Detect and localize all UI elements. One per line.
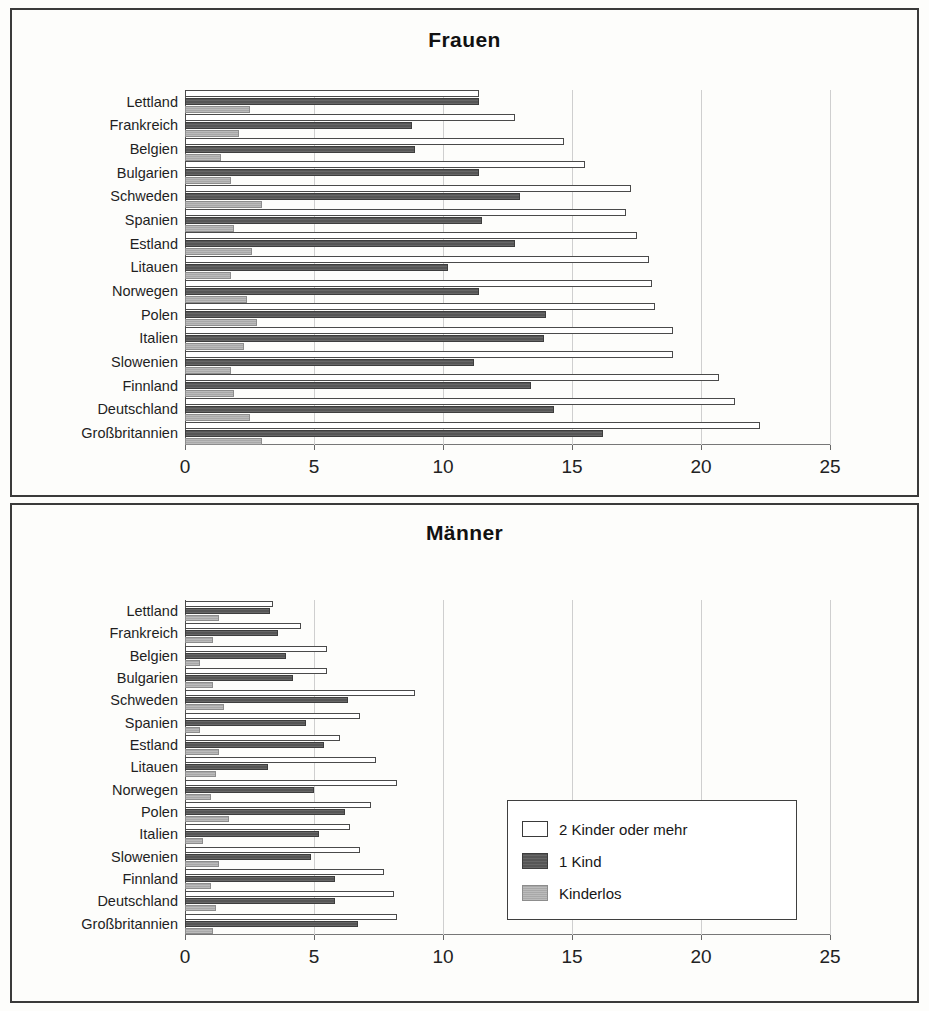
x-axis-tick-label: 0 — [180, 946, 191, 968]
bar-skinderlos — [185, 771, 216, 777]
bar-skinderlos — [185, 905, 216, 911]
category-label: Deutschland — [97, 894, 178, 909]
bar-s1kind — [185, 430, 603, 437]
x-axis-tick-label: 0 — [180, 456, 191, 478]
bar-s2plus — [185, 690, 415, 696]
plot-area-frauen: 0510152025LettlandFrankreichBelgienBulga… — [185, 90, 830, 445]
category-label: Spanien — [125, 213, 178, 228]
category-label: Finnland — [122, 379, 178, 394]
x-axis-tick — [701, 935, 702, 940]
bar-s1kind — [185, 288, 479, 295]
category-label: Spanien — [125, 716, 178, 731]
bar-s2plus — [185, 668, 327, 674]
chart-title-maenner: Männer — [12, 521, 917, 545]
x-axis-tick — [572, 935, 573, 940]
x-axis-tick-label: 25 — [819, 456, 840, 478]
bar-s1kind — [185, 720, 306, 726]
bar-s1kind — [185, 876, 335, 882]
bar-s2plus — [185, 185, 631, 192]
bar-s2plus — [185, 90, 479, 97]
bar-s2plus — [185, 114, 515, 121]
bar-skinderlos — [185, 749, 219, 755]
category-label: Italien — [139, 331, 178, 346]
bar-skinderlos — [185, 883, 211, 889]
bar-skinderlos — [185, 704, 224, 710]
x-axis-tick-label: 10 — [432, 946, 453, 968]
category-row: Großbritannien — [185, 421, 830, 445]
bar-s1kind — [185, 787, 314, 793]
bar-s1kind — [185, 898, 335, 904]
bar-s2plus — [185, 398, 735, 405]
category-label: Italien — [139, 827, 178, 842]
bar-s2plus — [185, 646, 327, 652]
bar-s1kind — [185, 169, 479, 176]
bar-s2plus — [185, 623, 301, 629]
category-row: Bulgarien — [185, 667, 830, 689]
category-label: Polen — [141, 805, 178, 820]
bar-s2plus — [185, 422, 760, 429]
bar-s2plus — [185, 802, 371, 808]
x-axis-tick-label: 10 — [432, 456, 453, 478]
bar-skinderlos — [185, 861, 219, 867]
category-row: Belgien — [185, 645, 830, 667]
bar-s2plus — [185, 891, 394, 897]
category-row: Lettland — [185, 600, 830, 622]
category-label: Estland — [130, 738, 178, 753]
category-row: Frankreich — [185, 114, 830, 138]
category-row: Litauen — [185, 756, 830, 778]
bar-s2plus — [185, 780, 397, 786]
gridline — [830, 600, 831, 935]
bar-s1kind — [185, 359, 474, 366]
legend-label-kinderlos: Kinderlos — [559, 885, 622, 902]
category-label: Litauen — [130, 260, 178, 275]
x-axis-tick — [443, 445, 444, 450]
legend-item-2-kinder-oder-mehr: 2 Kinder oder mehr — [522, 813, 780, 845]
bar-s2plus — [185, 351, 673, 358]
category-label: Lettland — [126, 604, 178, 619]
bar-skinderlos — [185, 816, 229, 822]
bar-s2plus — [185, 327, 673, 334]
bar-skinderlos — [185, 838, 203, 844]
bar-s2plus — [185, 374, 719, 381]
bar-skinderlos — [185, 615, 219, 621]
category-row: Polen — [185, 303, 830, 327]
bar-s1kind — [185, 608, 270, 614]
bar-skinderlos — [185, 390, 234, 397]
category-row: Deutschland — [185, 398, 830, 422]
category-row: Litauen — [185, 256, 830, 280]
category-label: Großbritannien — [81, 917, 178, 932]
x-axis-tick-label: 20 — [690, 456, 711, 478]
category-row: Spanien — [185, 712, 830, 734]
category-label: Norwegen — [112, 284, 178, 299]
category-label: Frankreich — [110, 626, 179, 641]
category-label: Litauen — [130, 760, 178, 775]
category-label: Polen — [141, 308, 178, 323]
category-label: Belgien — [130, 142, 178, 157]
bar-skinderlos — [185, 248, 252, 255]
category-row: Italien — [185, 327, 830, 351]
legend-item-1-kind: 1 Kind — [522, 845, 780, 877]
bar-skinderlos — [185, 154, 221, 161]
category-row: Norwegen — [185, 279, 830, 303]
bar-s2plus — [185, 303, 655, 310]
category-label: Norwegen — [112, 783, 178, 798]
chart-legend: 2 Kinder oder mehr 1 Kind Kinderlos — [507, 800, 797, 920]
bar-skinderlos — [185, 130, 239, 137]
x-axis-tick — [185, 445, 186, 450]
bar-s2plus — [185, 914, 397, 920]
legend-item-kinderlos: Kinderlos — [522, 877, 780, 909]
x-axis-tick — [701, 445, 702, 450]
bar-skinderlos — [185, 225, 234, 232]
chart-panel-frauen: Frauen 0510152025LettlandFrankreichBelgi… — [10, 8, 919, 497]
category-row: Slowenien — [185, 350, 830, 374]
bar-skinderlos — [185, 296, 247, 303]
bar-s2plus — [185, 280, 652, 287]
bar-skinderlos — [185, 319, 257, 326]
bar-s1kind — [185, 382, 531, 389]
chart-panel-maenner: Männer 0510152025LettlandFrankreichBelgi… — [10, 503, 919, 1003]
category-label: Bulgarien — [117, 166, 178, 181]
bar-skinderlos — [185, 367, 231, 374]
bar-s1kind — [185, 921, 358, 927]
bar-s2plus — [185, 757, 376, 763]
bar-s1kind — [185, 193, 520, 200]
